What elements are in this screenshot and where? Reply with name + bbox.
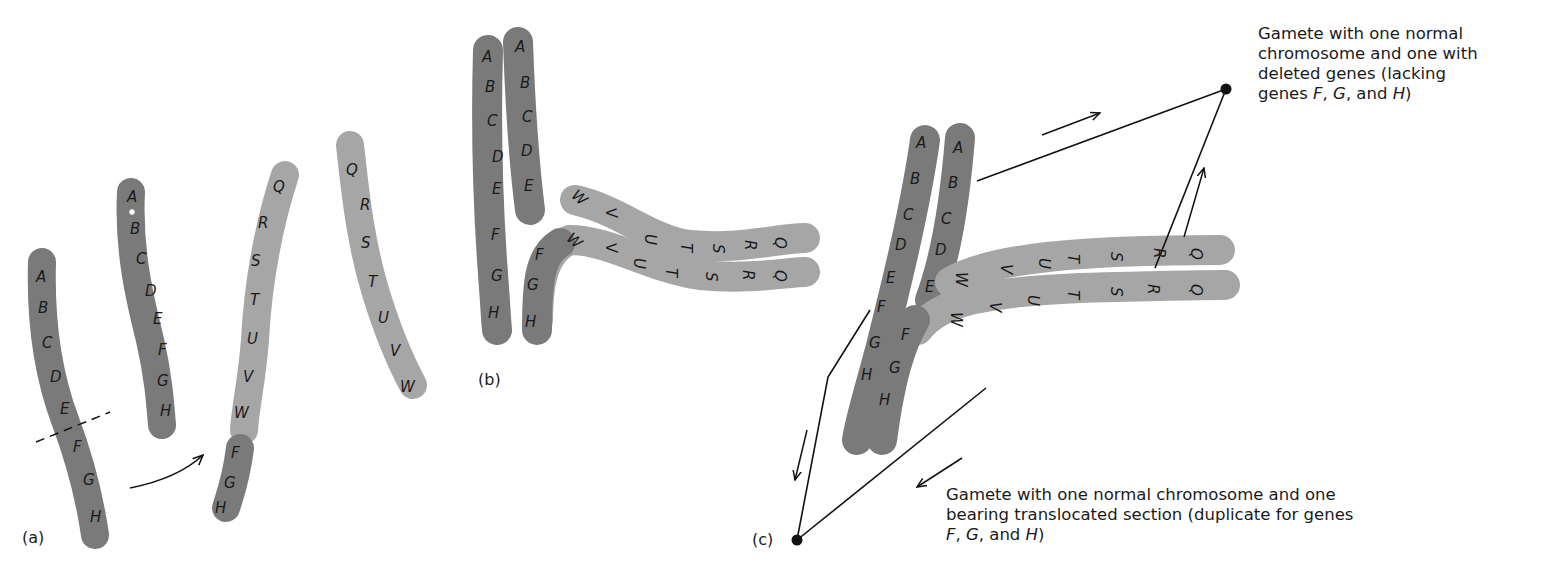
caption-text: , [1323,84,1334,103]
arrow-down-icon [795,430,807,480]
arrow-up-right-icon [1042,113,1100,135]
svg-text:F: F [535,246,544,264]
svg-text:C: C [941,210,952,228]
caption-line: chromosome and one with [1258,44,1478,64]
svg-text:G: G [869,334,881,352]
caption-text: genes [1258,84,1313,103]
svg-text:H: H [160,402,171,420]
arrow-down-left-icon [917,458,962,487]
panel-label-a: (a) [22,528,44,547]
panel-label-b: (b) [478,370,501,389]
caption-text: , [956,525,967,544]
gamete-dot-top [1221,84,1232,95]
svg-text:A: A [514,38,525,56]
svg-text:H: H [488,304,499,322]
svg-text:B: B [520,74,530,92]
svg-text:U: U [1024,295,1042,306]
gene-g: G [1333,84,1346,103]
svg-text:H: H [525,313,536,331]
svg-text:A: A [126,188,137,206]
gene-f: F [946,525,956,544]
svg-text:Q: Q [1187,284,1205,296]
svg-text:E: E [524,177,534,195]
gamete-paths [797,89,1226,540]
svg-text:D: D [521,142,533,160]
svg-text:B: B [485,78,495,96]
svg-text:G: G [491,267,503,285]
transfer-arrow [130,455,203,488]
svg-text:V: V [986,302,1004,314]
caption-text: , and [1346,84,1393,103]
svg-text:C: C [136,250,147,268]
svg-text:F: F [158,341,167,359]
svg-text:B: B [38,299,48,317]
svg-text:A: A [915,134,926,152]
svg-text:C: C [903,206,914,224]
caption-line: bearing translocated section (duplicate … [946,505,1353,525]
svg-text:B: B [910,170,920,188]
svg-text:Q: Q [273,178,285,196]
svg-text:F: F [877,298,886,316]
gene-h: H [1026,525,1038,544]
svg-text:S: S [251,252,261,270]
svg-text:E: E [153,310,163,328]
gamete-dot-bottom [792,535,803,546]
caption-line: F, G, and H) [946,525,1353,545]
svg-text:G: G [889,359,901,377]
svg-text:S: S [709,244,727,254]
svg-text:F: F [231,444,240,462]
svg-text:S: S [361,234,371,252]
caption-text: ) [1405,84,1411,103]
svg-text:U: U [630,258,648,269]
svg-text:R: R [1144,284,1162,294]
svg-text:Q: Q [1187,248,1205,260]
svg-text:H: H [90,508,101,526]
svg-text:W: W [234,404,250,422]
svg-text:D: D [492,148,504,166]
svg-text:V: V [390,342,402,360]
svg-text:D: D [935,241,947,259]
svg-text:B: B [130,220,140,238]
svg-text:G: G [527,276,539,294]
arrow-up-icon [1184,168,1204,237]
svg-text:E: E [925,278,935,296]
svg-text:S: S [1107,287,1125,297]
chromosome-a1 [42,262,95,535]
svg-text:H: H [215,499,226,517]
svg-text:G: G [224,474,236,492]
svg-text:S: S [1107,252,1125,262]
panel-a: ABC DEF GH ABC DEF GH QRS TUV WFG H QRS … [35,145,416,535]
svg-text:U: U [378,309,389,327]
caption-line: deleted genes (lacking [1258,64,1478,84]
panel-c: ABC DEF GH ABC DE FGH W V U T S R Q W V … [792,84,1232,546]
svg-text:W: W [400,378,416,396]
caption-text: , and [979,525,1026,544]
svg-text:S: S [702,272,720,282]
gene-f: F [1313,84,1323,103]
svg-text:D: D [50,368,62,386]
svg-text:G: G [157,372,169,390]
svg-text:R: R [741,240,759,250]
gene-h: H [1393,84,1405,103]
svg-text:E: E [60,400,70,418]
svg-text:H: H [879,391,890,409]
svg-text:F: F [901,326,910,344]
gene-g: G [966,525,979,544]
caption-line: Gamete with one normal chromosome and on… [946,485,1353,505]
svg-text:U: U [641,234,659,245]
caption-line: genes F, G, and H) [1258,84,1478,104]
svg-text:A: A [952,139,963,157]
svg-text:D: D [895,236,907,254]
panel-label-c: (c) [752,530,773,549]
svg-text:Q: Q [346,161,358,179]
svg-text:F: F [491,226,500,244]
svg-text:F: F [73,438,82,456]
svg-text:A: A [35,268,46,286]
svg-text:V: V [997,264,1015,276]
svg-text:R: R [258,214,268,232]
svg-text:W: W [952,272,970,288]
svg-text:G: G [83,471,95,489]
svg-text:B: B [948,174,958,192]
svg-text:E: E [886,269,896,287]
svg-text:R: R [739,270,757,280]
